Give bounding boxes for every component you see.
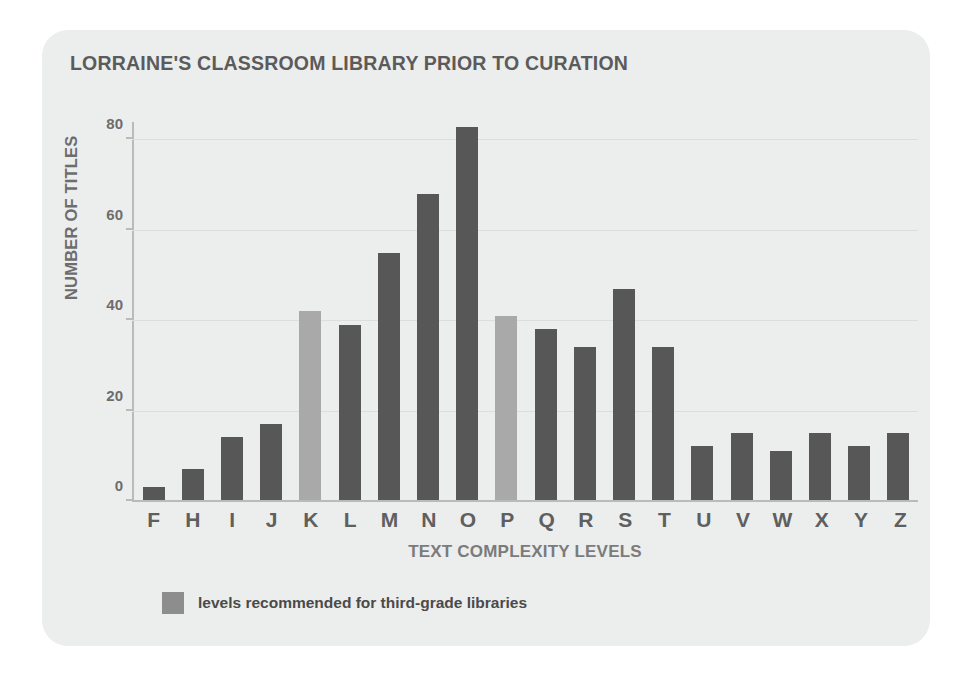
x-tick-label-k: K	[291, 508, 330, 532]
bar-slot	[644, 122, 683, 500]
x-tick-label-p: P	[488, 508, 527, 532]
bar-slot	[761, 122, 800, 500]
x-tick-label-u: U	[684, 508, 723, 532]
x-tick-label-y: Y	[841, 508, 880, 532]
bar-y[interactable]	[848, 446, 870, 500]
x-tick-label-s: S	[606, 508, 645, 532]
y-tick-label: 80	[106, 115, 123, 132]
x-tick-label-q: Q	[527, 508, 566, 532]
y-tick-label: 20	[106, 386, 123, 403]
x-tick-label-r: R	[566, 508, 605, 532]
bar-slot	[879, 122, 918, 500]
legend-swatch	[162, 592, 184, 614]
page-root: LORRAINE'S CLASSROOM LIBRARY PRIOR TO CU…	[0, 0, 980, 689]
plot-area: 020406080	[132, 122, 918, 502]
y-tick-mark	[126, 228, 132, 230]
x-tick-label-i: I	[213, 508, 252, 532]
bar-slot	[487, 122, 526, 500]
bar-slot	[840, 122, 879, 500]
bar-h[interactable]	[182, 469, 204, 501]
bar-f[interactable]	[143, 487, 165, 501]
bar-u[interactable]	[691, 446, 713, 500]
legend: levels recommended for third-grade libra…	[162, 592, 527, 614]
bar-t[interactable]	[652, 347, 674, 500]
bar-series	[134, 122, 918, 500]
x-tick-label-h: H	[173, 508, 212, 532]
bar-slot	[212, 122, 251, 500]
y-axis-title-container: NUMBER OF TITLES	[68, 150, 98, 450]
bar-n[interactable]	[417, 194, 439, 500]
y-tick-mark	[126, 137, 132, 139]
y-tick-mark	[126, 409, 132, 411]
y-tick-label: 60	[106, 205, 123, 222]
y-tick-mark	[126, 499, 132, 501]
bar-r[interactable]	[574, 347, 596, 500]
legend-label: levels recommended for third-grade libra…	[198, 594, 527, 612]
x-axis-title: TEXT COMPLEXITY LEVELS	[132, 542, 918, 562]
x-tick-label-f: F	[134, 508, 173, 532]
x-tick-label-v: V	[723, 508, 762, 532]
x-tick-label-t: T	[645, 508, 684, 532]
chart-title: LORRAINE'S CLASSROOM LIBRARY PRIOR TO CU…	[70, 52, 628, 75]
bar-o[interactable]	[456, 127, 478, 501]
y-axis-title: NUMBER OF TITLES	[62, 60, 81, 300]
y-tick-label: 0	[115, 477, 123, 494]
y-tick-label: 40	[106, 296, 123, 313]
bar-s[interactable]	[613, 289, 635, 501]
bar-p[interactable]	[495, 316, 517, 501]
bar-q[interactable]	[535, 329, 557, 500]
bar-slot	[800, 122, 839, 500]
bar-slot	[448, 122, 487, 500]
x-axis-tick-labels: FHIJKLMNOPQRSTUVWXYZ	[134, 508, 920, 532]
bar-m[interactable]	[378, 253, 400, 501]
x-tick-label-m: M	[370, 508, 409, 532]
y-tick-mark	[126, 318, 132, 320]
bar-slot	[565, 122, 604, 500]
bar-slot	[291, 122, 330, 500]
bar-z[interactable]	[887, 433, 909, 501]
bar-v[interactable]	[731, 433, 753, 501]
bar-slot	[330, 122, 369, 500]
x-tick-label-l: L	[330, 508, 369, 532]
bar-x[interactable]	[809, 433, 831, 501]
x-tick-label-w: W	[763, 508, 802, 532]
bar-slot	[722, 122, 761, 500]
bar-slot	[173, 122, 212, 500]
chart-card: LORRAINE'S CLASSROOM LIBRARY PRIOR TO CU…	[42, 30, 930, 646]
bar-slot	[526, 122, 565, 500]
bar-j[interactable]	[260, 424, 282, 500]
bar-slot	[252, 122, 291, 500]
bar-slot	[369, 122, 408, 500]
bar-l[interactable]	[339, 325, 361, 501]
bar-k[interactable]	[299, 311, 321, 500]
bar-w[interactable]	[770, 451, 792, 501]
x-tick-label-j: J	[252, 508, 291, 532]
bar-slot	[604, 122, 643, 500]
bar-slot	[683, 122, 722, 500]
bar-slot	[134, 122, 173, 500]
x-tick-label-n: N	[409, 508, 448, 532]
x-tick-label-o: O	[448, 508, 487, 532]
gridline	[132, 501, 918, 502]
bar-slot	[408, 122, 447, 500]
x-tick-label-x: X	[802, 508, 841, 532]
bar-i[interactable]	[221, 437, 243, 500]
x-tick-label-z: Z	[881, 508, 920, 532]
